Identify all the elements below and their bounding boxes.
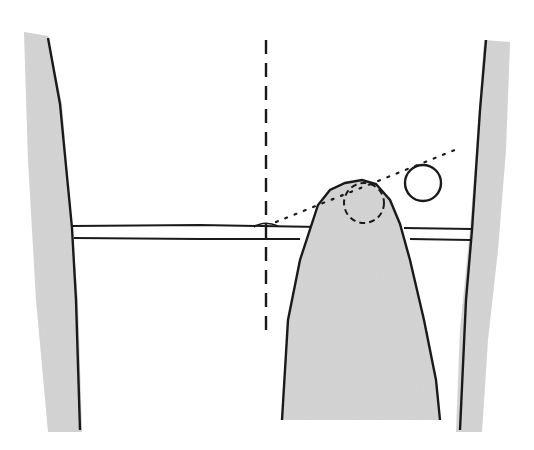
right-wall: [456, 40, 510, 432]
horizontal-bar: [72, 225, 472, 240]
bar-top-line-right: [404, 228, 472, 229]
left-wall: [24, 32, 82, 432]
bar-top-line-left: [72, 225, 320, 227]
bar-bottom-line-left: [74, 238, 300, 239]
diagram-canvas: [0, 0, 534, 450]
mound-shade: [282, 180, 440, 420]
bar-bottom-line-right: [410, 239, 470, 240]
right-wall-shade: [456, 40, 510, 432]
diagram-svg: [0, 0, 534, 450]
mound: [282, 180, 440, 420]
open-circle: [405, 165, 441, 201]
